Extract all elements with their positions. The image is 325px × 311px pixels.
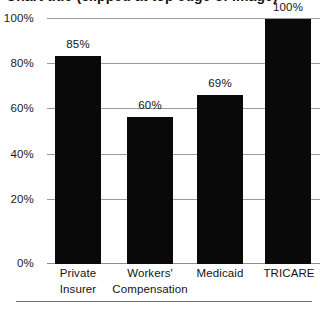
y-tick-0-label: 0% <box>17 257 37 269</box>
y-tick-100: 100% <box>0 12 37 24</box>
bar-label-private-insurer: 85% <box>55 38 101 50</box>
y-tick-0: 0% <box>0 257 37 269</box>
x-axis-labels: Private Insurer Workers' Compensation Me… <box>47 266 320 304</box>
x-label-tricare: TRICARE <box>259 266 319 282</box>
plot-area: 100% 80% 60% 40% 20% 0% 85% 60% 69% 100% <box>47 18 320 264</box>
bar-tricare[interactable] <box>265 19 311 264</box>
x-label-workers-compensation-line1: Workers' <box>127 267 173 279</box>
chart-title-text: Chart title (clipped at top edge of imag… <box>6 0 278 4</box>
y-tick-20-label: 20% <box>10 193 37 205</box>
x-label-workers-compensation: Workers' Compensation <box>107 266 193 297</box>
x-label-medicaid: Medicaid <box>190 266 250 282</box>
x-label-medicaid-line1: Medicaid <box>197 267 244 279</box>
bar-medicaid[interactable] <box>197 95 243 264</box>
y-tick-60-label: 60% <box>10 102 37 114</box>
bottom-divider <box>16 301 312 302</box>
y-tick-40-label: 40% <box>10 148 37 160</box>
x-label-private-insurer-line1: Private <box>60 267 97 279</box>
y-tick-80: 80% <box>0 57 37 69</box>
bar-label-medicaid: 69% <box>197 77 243 89</box>
x-label-workers-compensation-line2: Compensation <box>107 282 193 298</box>
x-label-tricare-line1: TRICARE <box>263 267 314 279</box>
bar-label-tricare: 100% <box>265 1 311 13</box>
x-label-private-insurer: Private Insurer <box>43 266 113 297</box>
bar-workers-compensation[interactable] <box>127 117 173 264</box>
y-tick-20: 20% <box>0 193 37 205</box>
bar-label-workers-compensation: 60% <box>127 99 173 111</box>
bar-private-insurer[interactable] <box>55 56 101 264</box>
y-tick-100-label: 100% <box>4 12 37 24</box>
bar-chart-figure: Chart title (clipped at top edge of imag… <box>0 0 325 311</box>
y-tick-80-label: 80% <box>10 57 37 69</box>
y-tick-60: 60% <box>0 102 37 114</box>
x-label-private-insurer-line2: Insurer <box>43 282 113 298</box>
y-tick-40: 40% <box>0 148 37 160</box>
